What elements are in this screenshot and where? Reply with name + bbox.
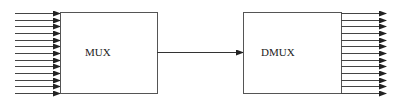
mux-dmux-diagram: MUX DMUX xyxy=(0,0,401,101)
dmux-label: DMUX xyxy=(261,46,295,58)
output-lines xyxy=(341,14,386,94)
mux-label: MUX xyxy=(85,46,111,58)
input-lines xyxy=(15,14,60,94)
